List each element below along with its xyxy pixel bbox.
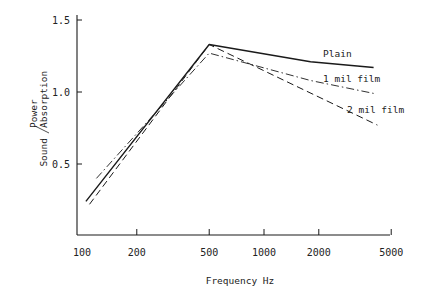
y-tick-label: 1.5 <box>52 15 70 26</box>
series-label: 2 mil film <box>347 104 404 115</box>
y-axis-title-main: Sound <box>38 138 49 167</box>
y-tick-label: 0.5 <box>52 159 70 170</box>
x-ticks: 100200500100020005000 <box>73 229 403 258</box>
series-labels: Plain1 mil film2 mil film <box>323 48 404 115</box>
series-label: 1 mil film <box>323 73 380 84</box>
x-tick-label: 100 <box>73 247 91 258</box>
series-label: Plain <box>323 48 352 59</box>
y-axis-title-sub: Absorption <box>38 71 49 128</box>
x-tick-label: 1000 <box>252 247 276 258</box>
series-line-2-mil-film <box>90 45 378 205</box>
y-axis-title: Sound Power Absorption <box>28 71 49 167</box>
x-axis-title: Frequency Hz <box>206 275 275 286</box>
series-line-plain <box>86 45 374 202</box>
y-tick-label: 1.0 <box>52 87 70 98</box>
x-tick-label: 500 <box>200 247 218 258</box>
x-tick-label: 200 <box>128 247 146 258</box>
series-line-1-mil-film <box>96 53 373 178</box>
x-tick-label: 2000 <box>307 247 331 258</box>
line-chart: 0.51.01.5 100200500100020005000 Plain1 m… <box>0 0 423 304</box>
series-lines <box>86 45 378 205</box>
x-tick-label: 5000 <box>379 247 403 258</box>
